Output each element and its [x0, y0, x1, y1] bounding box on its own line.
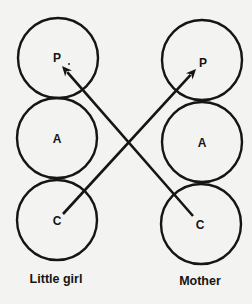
little-girl-child-ego-letter: C [53, 214, 62, 228]
little-girl-label: Little girl [30, 272, 83, 286]
diagram-canvas: PACPAC Little girlMother [0, 0, 252, 304]
mother-label: Mother [179, 274, 221, 288]
little-girl-parent-ego-letter: P [53, 51, 61, 65]
person-little-girl: PAC [17, 18, 98, 260]
little-girl-adult-ego-letter: A [53, 132, 62, 146]
transaction-diagram: PACPAC Little girlMother [0, 0, 252, 304]
person-mother: PAC [161, 20, 242, 264]
mother-adult-ego-letter: A [198, 136, 207, 150]
ink-dot [68, 63, 70, 65]
mother-child-ego-letter: C [196, 218, 205, 232]
mother-parent-ego-letter: P [199, 56, 207, 70]
